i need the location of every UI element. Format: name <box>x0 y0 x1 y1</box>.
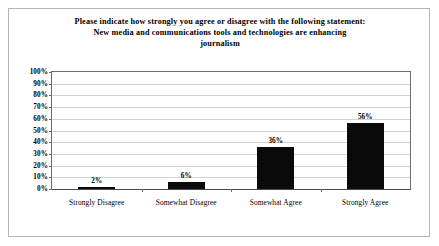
chart-title-line-3: journalism <box>9 38 430 49</box>
y-axis-tick-mark <box>49 131 52 132</box>
bar: 36% <box>257 147 294 189</box>
gridline <box>52 107 410 108</box>
y-axis-tick-label: 0% <box>37 185 48 193</box>
y-axis-tick-label: 10% <box>33 173 48 181</box>
bar: 6% <box>168 182 205 189</box>
x-axis-tick-mark <box>321 189 322 192</box>
y-axis-tick-mark <box>49 189 52 190</box>
y-axis-tick-label: 90% <box>33 80 48 88</box>
y-axis-tick-label: 60% <box>33 115 48 123</box>
y-axis-tick-mark <box>49 119 52 120</box>
x-axis-category-label: Somewhat Disagree <box>156 198 217 207</box>
chart-title-line-1: Please indicate how strongly you agree o… <box>9 16 430 27</box>
bar-value-label: 2% <box>91 177 102 185</box>
y-axis-tick-mark <box>49 84 52 85</box>
bar: 2% <box>78 187 115 189</box>
y-axis-tick-mark <box>49 142 52 143</box>
bar-value-label: 6% <box>181 172 192 180</box>
y-axis-tick-label: 70% <box>33 103 48 111</box>
y-axis-tick-mark <box>49 177 52 178</box>
x-axis-category-label: Somewhat Agree <box>250 198 302 207</box>
gridline <box>52 119 410 120</box>
y-axis-tick-mark <box>49 95 52 96</box>
chart-title-line-2: New media and communications tools and t… <box>9 27 430 38</box>
y-axis-tick-label: 50% <box>33 127 48 135</box>
x-axis-tick-mark <box>231 189 232 192</box>
y-axis-tick-label: 100% <box>30 68 48 76</box>
plot-area: 0%10%20%30%40%50%60%70%80%90%100%2%Stron… <box>51 71 411 190</box>
bar-value-label: 56% <box>358 113 373 121</box>
x-axis-category-label: Strongly Agree <box>342 198 388 207</box>
bar: 56% <box>347 123 384 189</box>
y-axis-tick-mark <box>49 154 52 155</box>
x-axis-category-label: Strongly Disagree <box>69 198 124 207</box>
y-axis-tick-mark <box>49 166 52 167</box>
x-axis-tick-mark <box>142 189 143 192</box>
bar-value-label: 36% <box>268 137 283 145</box>
y-axis-tick-label: 40% <box>33 138 48 146</box>
gridline <box>52 95 410 96</box>
y-axis-tick-mark <box>49 72 52 73</box>
y-axis-tick-label: 80% <box>33 91 48 99</box>
y-axis-tick-mark <box>49 107 52 108</box>
gridline <box>52 84 410 85</box>
y-axis-tick-label: 30% <box>33 150 48 158</box>
chart-figure: Please indicate how strongly you agree o… <box>8 8 430 237</box>
y-axis-tick-label: 20% <box>33 162 48 170</box>
chart-title: Please indicate how strongly you agree o… <box>9 16 430 50</box>
